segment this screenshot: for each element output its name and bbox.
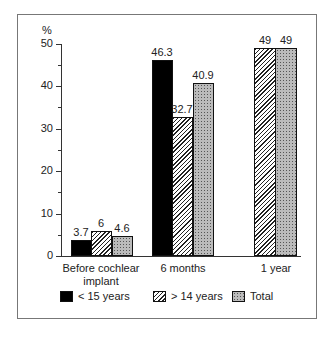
bar-under15-6months [152, 60, 173, 256]
legend-label: > 14 years [171, 290, 223, 302]
x-category-label: 6 months [143, 262, 223, 274]
legend-swatch-under15 [60, 291, 73, 302]
value-label: 40.9 [188, 69, 218, 81]
bar-over14-6months [172, 117, 193, 256]
y-tick-label: 30 [29, 122, 53, 134]
y-tick-label: 40 [29, 79, 53, 91]
x-category-label: 1 year [236, 262, 316, 274]
legend-swatch-total [232, 291, 245, 302]
x-label-line: implant [56, 275, 146, 288]
y-tick-label: 10 [29, 207, 53, 219]
x-category-label: Before cochlear implant [56, 262, 146, 288]
bar-total-1year [275, 48, 297, 256]
y-tick-label: 0 [29, 249, 53, 261]
value-label: 49 [271, 34, 301, 46]
legend-swatch-over14 [153, 291, 166, 302]
value-label: 32.7 [167, 103, 197, 115]
x-axis [61, 256, 301, 257]
value-label: 4.6 [107, 222, 137, 234]
legend-label: < 15 years [78, 290, 130, 302]
x-label-line: Before cochlear [56, 262, 146, 275]
legend-label: Total [250, 290, 273, 302]
y-axis [61, 44, 62, 256]
y-tick-label: 50 [29, 37, 53, 49]
bar-under15-before [71, 240, 92, 256]
bar-total-before [112, 236, 133, 256]
value-label: 46.3 [147, 46, 177, 58]
y-tick-label: 20 [29, 164, 53, 176]
y-axis-unit: % [42, 24, 52, 36]
bar-over14-1year [254, 48, 276, 256]
